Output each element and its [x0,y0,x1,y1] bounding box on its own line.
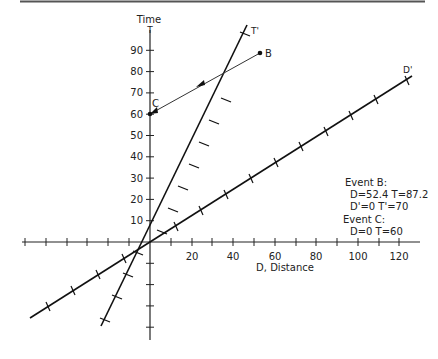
t-prime-axis [101,25,247,326]
point-b-label: B [265,48,272,59]
y-tick-label: 80 [130,66,143,77]
y-tick-labels: 10 20 30 40 50 60 70 80 90 [130,45,143,226]
event-b-line1: D=52.4 T=87.2 [350,189,428,200]
event-b-line2: D'=0 T'=70 [350,201,408,212]
point-c-label: C [152,98,159,109]
spacetime-diagram: 10 20 30 40 50 60 70 80 90 20 40 60 80 1… [0,0,438,359]
x-tick-labels: 20 40 60 80 100 120 [186,251,409,262]
x-tick-label: 40 [227,251,240,262]
event-c-point [148,112,153,117]
x-axis-title: D, Distance [256,262,314,273]
y-tick-label: 70 [130,87,143,98]
y-tick-label: 30 [130,173,143,184]
y-axis-title: Time [136,14,161,25]
y-tick-label: 90 [130,45,143,56]
x-tick-label: 100 [348,251,367,262]
t-prime-label: T' [250,26,259,36]
x-tick-label: 20 [186,251,199,262]
y-tick-label: 10 [130,215,143,226]
y-tick-label: 20 [130,194,143,205]
event-b-point [258,51,263,56]
event-b-title: Event B: [345,177,387,188]
x-tick-label: 120 [389,251,408,262]
d-prime-label: D' [403,65,412,75]
y-tick-label: 50 [130,130,143,141]
event-c-title: Event C: [343,214,385,225]
x-tick-label: 60 [269,251,282,262]
arrow-head-icon [196,80,205,87]
y-axis-symbol: T [146,25,153,35]
event-annotations: Event B: D=52.4 T=87.2 D'=0 T'=70 Event … [343,177,428,237]
y-tick-label: 40 [130,151,143,162]
b-to-c-signal-line [150,53,260,114]
x-tick-label: 80 [310,251,323,262]
t-prime-ticks [100,32,250,322]
event-c-line1: D=0 T=60 [350,226,403,237]
y-tick-label: 60 [130,109,143,120]
